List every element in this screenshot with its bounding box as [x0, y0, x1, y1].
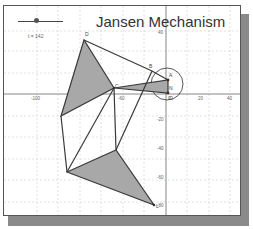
- svg-text:-60: -60: [118, 96, 125, 101]
- svg-text:-20: -20: [157, 117, 164, 122]
- slider-track: [18, 21, 63, 22]
- time-label: t = 142: [28, 33, 43, 39]
- time-slider[interactable]: [18, 18, 63, 24]
- svg-text:40: 40: [158, 30, 164, 35]
- svg-text:D: D: [85, 31, 89, 37]
- svg-text:-40: -40: [157, 146, 164, 151]
- diagram-title: Jansen Mechanism: [96, 13, 225, 30]
- slider-knob[interactable]: [34, 18, 39, 23]
- svg-text:C: C: [115, 83, 119, 89]
- plot-frame: -100 -80 -60 0 20 40 40 -20 -40 -60 -80: [3, 5, 241, 216]
- svg-text:-60: -60: [157, 175, 164, 180]
- svg-text:20: 20: [198, 96, 204, 101]
- svg-text:B: B: [149, 63, 153, 69]
- svg-text:L: L: [156, 203, 159, 209]
- svg-text:-100: -100: [31, 96, 41, 101]
- svg-text:O: O: [169, 95, 173, 101]
- svg-text:N: N: [169, 85, 173, 91]
- svg-text:40: 40: [227, 96, 233, 101]
